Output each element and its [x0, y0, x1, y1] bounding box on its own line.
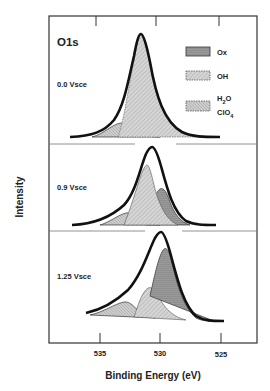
tick-label-530: 530: [154, 349, 167, 358]
x-axis-label: Binding Energy (eV): [105, 370, 201, 381]
tick-label-535: 535: [94, 349, 107, 358]
legend-swatch-oh: [186, 71, 210, 80]
legend-label-ox: Ox: [217, 48, 228, 57]
legend-label-h2o: H2O: [217, 94, 231, 105]
panel-0-9v: 0.9 Vsce: [57, 147, 216, 225]
legend-label-oh: OH: [217, 72, 228, 81]
y-axis-label: Intensity: [14, 176, 25, 218]
panel-label-1-25v: 1.25 Vsce: [57, 272, 91, 281]
panel-label-0-9v: 0.9 Vsce: [57, 183, 87, 192]
xps-chart: O1s 0.0 Vsce Ox OH H2O ClO4 0.9 Vsce 1.2…: [0, 0, 270, 391]
legend: Ox OH H2O ClO4: [186, 47, 234, 119]
legend-label-clo4: ClO4: [217, 108, 234, 119]
panel-1-25v: 1.25 Vsce: [57, 232, 224, 321]
legend-swatch-ox: [186, 47, 210, 56]
top-ticks: [96, 16, 219, 26]
title-o1s: O1s: [57, 36, 79, 48]
bottom-ticks: [100, 333, 221, 343]
panel-label-0v: 0.0 Vsce: [57, 80, 87, 89]
legend-swatch-h2o: [186, 101, 210, 111]
tick-label-525: 525: [215, 350, 228, 359]
